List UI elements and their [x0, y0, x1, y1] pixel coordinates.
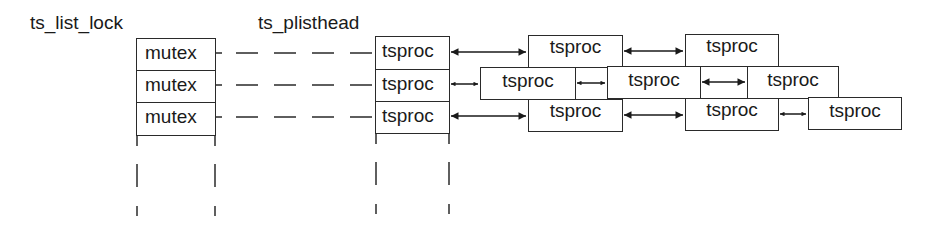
tsproc-node-r1-2: tsproc — [685, 34, 779, 67]
plisthead-cell-3: tsproc — [375, 101, 450, 134]
plisthead-cell-2: tsproc — [375, 69, 450, 102]
mutex-cell-1: mutex — [136, 38, 216, 71]
mutex-cell-3: mutex — [136, 102, 216, 136]
tsproc-node-r3-1: tsproc — [528, 99, 623, 132]
mutex-cell-2: mutex — [136, 70, 216, 103]
tsproc-node-r3-2: tsproc — [685, 98, 779, 131]
row2-gap-cell-2 — [700, 66, 748, 99]
tsproc-node-r1-1: tsproc — [528, 35, 623, 68]
row2-gap-cell — [575, 67, 608, 100]
tsproc-node-r3-3: tsproc — [808, 97, 902, 130]
tsproc-node-r2-2: tsproc — [607, 66, 701, 99]
tsproc-node-r2-1: tsproc — [480, 67, 576, 100]
tsproc-node-r2-3: tsproc — [747, 66, 839, 99]
plisthead-cell-1: tsproc — [375, 36, 450, 70]
